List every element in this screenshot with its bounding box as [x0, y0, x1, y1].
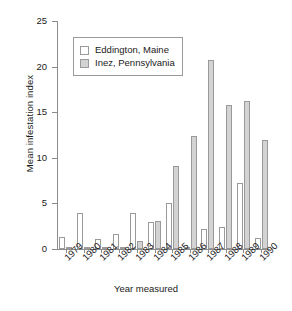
bar-group-1987 [201, 21, 214, 249]
y-tick-label-10: 10 [17, 153, 47, 163]
chart-legend: Eddington, Maine Inez, Pennsylvania [73, 37, 183, 76]
y-tick-label-25: 25 [17, 16, 47, 26]
y-tick-label-15: 15 [17, 107, 47, 117]
legend-swatch-eddington [80, 46, 89, 55]
legend-label-eddington: Eddington, Maine [95, 45, 169, 55]
y-tick-0 [52, 249, 57, 250]
legend-label-inez: Inez, Pennsylvania [95, 58, 175, 68]
bar-1979-eddington [59, 237, 65, 249]
bar-group-1988 [219, 21, 232, 249]
bar-1987-inez [208, 60, 214, 249]
bar-group-1990 [255, 21, 268, 249]
y-tick-label-5: 5 [17, 198, 47, 208]
bar-group-1986 [184, 21, 197, 249]
y-tick-label-20: 20 [17, 62, 47, 72]
bar-group-1989 [237, 21, 250, 249]
legend-swatch-inez [80, 59, 89, 68]
bar-1986-inez [191, 136, 197, 249]
y-tick-label-0: 0 [17, 244, 47, 254]
legend-item-inez: Inez, Pennsylvania [80, 57, 175, 69]
legend-item-eddington: Eddington, Maine [80, 44, 175, 56]
bar-group-1979 [59, 21, 72, 249]
x-axis-title: Year measured [0, 283, 292, 294]
bar-1989-inez [244, 101, 250, 249]
bar-1985-inez [173, 166, 179, 249]
bar-1989-eddington [237, 183, 243, 249]
bar-1988-inez [226, 105, 232, 249]
bar-1990-inez [262, 140, 268, 249]
bar-chart-figure: Mean infestation index 0510152025 197919… [0, 0, 292, 311]
